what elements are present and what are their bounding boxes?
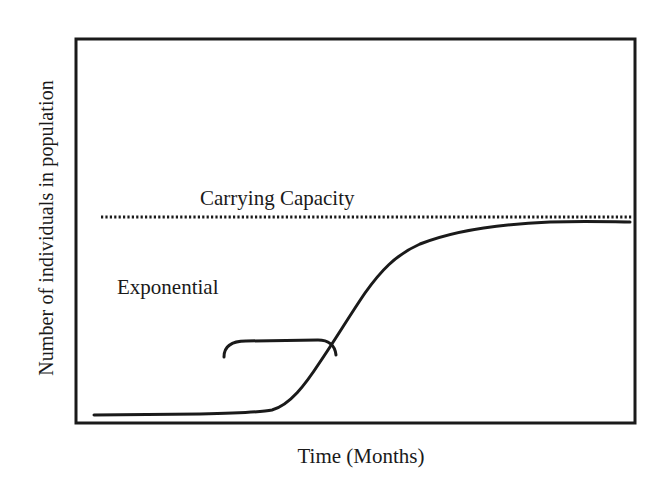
x-axis-label: Time (Months) xyxy=(298,444,425,469)
exponential-bracket xyxy=(224,340,336,357)
plot-frame xyxy=(76,39,635,423)
chart-canvas xyxy=(0,0,660,480)
population-curve xyxy=(94,222,630,415)
exponential-label: Exponential xyxy=(117,275,218,300)
carrying-capacity-label: Carrying Capacity xyxy=(200,186,355,211)
y-axis-label: Number of individuals in population xyxy=(35,80,58,376)
